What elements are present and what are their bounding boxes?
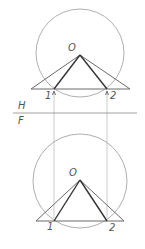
top-view-element-1 (54, 55, 80, 89)
front-view-tangent-right (80, 180, 124, 221)
top-view-base-circle (36, 9, 124, 97)
front-view-apex-label: O (69, 167, 77, 178)
fold-label-f: F (18, 115, 24, 126)
fold-label-h: H (18, 100, 26, 111)
fold-line-group: H F (13, 100, 137, 126)
front-view-element-2 (80, 180, 107, 221)
top-view-tangent-left (31, 55, 80, 89)
front-view-point-1-label: 1 (47, 221, 53, 232)
front-view: O 1 2 (33, 134, 127, 233)
top-view: O 1 2 (31, 9, 130, 101)
front-view-point-2-label: 2 (109, 222, 115, 233)
top-view-element-2 (80, 55, 107, 89)
orthographic-diagram: O 1 2 H F O 1 2 (0, 0, 145, 249)
top-view-point-1-label: 1 (45, 90, 51, 101)
top-view-point-2-label: 2 (110, 90, 116, 101)
top-view-apex-label: O (68, 42, 76, 53)
top-view-tangent-right (80, 55, 130, 89)
